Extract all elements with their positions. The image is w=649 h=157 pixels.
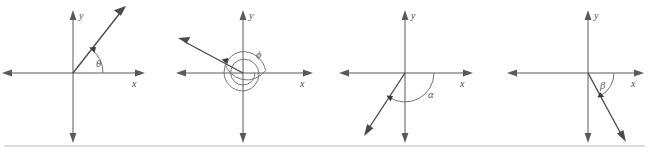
x-axis-label: x [299, 78, 305, 89]
diagram-beta: β x y [507, 10, 644, 143]
diagram-alpha: α x y [339, 10, 473, 143]
y-axis-down-arrowhead [402, 133, 409, 143]
y-axis-up-arrowhead [402, 10, 409, 20]
coordinate-axes [339, 10, 473, 143]
terminal-ray-arrowhead [617, 130, 626, 142]
y-axis-down-arrowhead [240, 133, 247, 143]
x-axis-right-arrowhead [135, 70, 145, 77]
terminal-ray-arrowhead [178, 37, 190, 44]
y-axis-up-arrowhead [585, 10, 592, 20]
x-axis-right-arrowhead [634, 70, 644, 77]
y-axis-up-arrowhead [240, 10, 247, 20]
coordinate-axes [2, 10, 145, 143]
figure-canvas: θ x y ϕ x y [0, 0, 649, 157]
terminal-ray-arrowhead [114, 6, 126, 16]
y-axis-label: y [248, 10, 254, 21]
x-axis-right-arrowhead [303, 70, 313, 77]
angle-label-alpha: α [428, 89, 434, 100]
terminal-ray [369, 73, 405, 128]
x-axis-left-arrowhead [339, 70, 349, 77]
angle-diagram-figure: θ x y ϕ x y [0, 0, 649, 157]
diagram-theta: θ x y [2, 6, 145, 143]
y-axis-label: y [593, 10, 599, 21]
diagram-phi: ϕ x y [176, 10, 313, 143]
x-axis-left-arrowhead [2, 70, 12, 77]
y-axis-label: y [410, 10, 416, 21]
x-axis-left-arrowhead [176, 70, 186, 77]
x-axis-label: x [131, 78, 137, 89]
x-axis-left-arrowhead [507, 70, 517, 77]
angle-label-phi: ϕ [256, 49, 262, 60]
terminal-ray-arrowhead [364, 124, 373, 136]
x-axis-right-arrowhead [463, 70, 473, 77]
y-axis-up-arrowhead [70, 10, 77, 20]
angle-label-theta: θ [96, 58, 101, 69]
coordinate-axes [507, 10, 644, 143]
y-axis-label: y [78, 10, 84, 21]
x-axis-label: x [630, 78, 636, 89]
x-axis-label: x [459, 78, 465, 89]
angle-label-beta: β [599, 80, 606, 91]
y-axis-down-arrowhead [70, 133, 77, 143]
terminal-ray [185, 42, 243, 73]
y-axis-down-arrowhead [585, 133, 592, 143]
coordinate-axes [176, 10, 313, 143]
